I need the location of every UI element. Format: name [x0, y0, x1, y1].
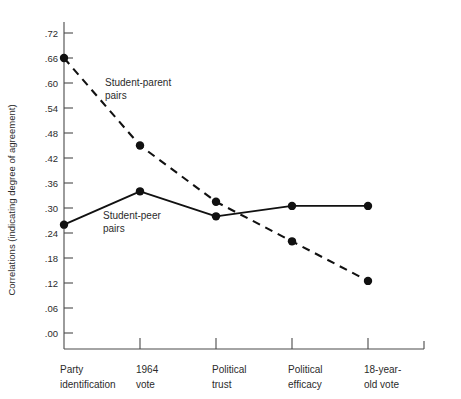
series-annotation-student-parent: Student-parent pairs: [105, 77, 171, 101]
y-tick-label: .72: [45, 28, 58, 39]
y-axis-ticks: [64, 33, 73, 333]
x-tick-label-political-efficacy: Political: [288, 364, 322, 375]
data-point: [60, 54, 68, 62]
y-tick-label: .30: [45, 203, 58, 214]
x-tick-label-political-trust-line2: trust: [212, 379, 232, 390]
y-tick-label: .12: [45, 278, 58, 289]
data-point: [60, 220, 68, 228]
data-series-layer: [60, 54, 372, 285]
annotation-student-peer-line2: pairs: [103, 223, 125, 234]
data-point: [364, 277, 372, 285]
y-tick-label: .48: [45, 128, 58, 139]
y-tick-label: .24: [45, 228, 58, 239]
y-tick-label: .42: [45, 153, 58, 164]
x-tick-label-1964-vote: 1964: [136, 364, 159, 375]
y-axis-title: Correlations (indicating degree of agree…: [6, 104, 17, 295]
y-tick-label: .54: [45, 103, 58, 114]
x-tick-label-political-efficacy-line2: efficacy: [288, 379, 322, 390]
y-tick-label: .18: [45, 253, 58, 264]
y-axis-tick-labels: .72 .66 .60 .54 .48 .42 .36 .30 .24 .18 …: [45, 28, 58, 339]
series-annotation-student-peer: Student-peer pairs: [103, 210, 161, 234]
x-tick-label-1964-vote-line2: vote: [136, 379, 155, 390]
x-axis-tick-labels: Party identification 1964 vote Political…: [60, 364, 401, 390]
y-tick-label: .66: [45, 53, 58, 64]
y-tick-label: .60: [45, 78, 58, 89]
y-tick-label: .00: [45, 328, 58, 339]
chart-figure: Correlations (indicating degree of agree…: [0, 0, 461, 399]
data-point: [212, 198, 220, 206]
x-tick-label-party-identification: Party: [60, 364, 83, 375]
x-axis-ticks: [140, 338, 368, 349]
data-point: [364, 202, 372, 210]
line-chart: Correlations (indicating degree of agree…: [0, 0, 461, 399]
data-point: [288, 237, 296, 245]
annotation-student-parent-line2: pairs: [105, 90, 127, 101]
y-tick-label: .06: [45, 303, 58, 314]
data-point: [136, 141, 144, 149]
y-tick-label: .36: [45, 178, 58, 189]
data-point: [136, 187, 144, 195]
annotation-student-peer-line1: Student-peer: [103, 210, 161, 221]
x-tick-label-party-identification-line2: identification: [60, 379, 116, 390]
annotation-student-parent-line1: Student-parent: [105, 77, 171, 88]
x-tick-label-18-year-old-vote: 18-year-: [364, 364, 401, 375]
data-point: [212, 212, 220, 220]
x-tick-label-political-trust: Political: [212, 364, 246, 375]
data-point: [288, 202, 296, 210]
x-tick-label-18-year-old-vote-line2: old vote: [364, 379, 399, 390]
